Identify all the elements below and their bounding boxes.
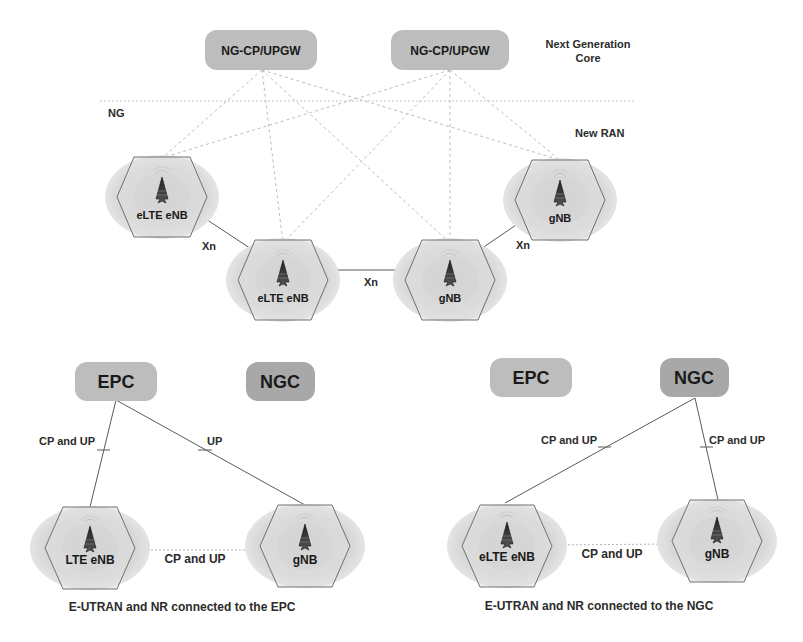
- core-node-label: EPC: [97, 372, 134, 392]
- new-ran-label: New RAN: [575, 127, 625, 139]
- bottom-right-diagram: EPC NGC CP and UP CP and UP eLTE eNB gNB…: [447, 358, 777, 613]
- link-label: CP and UP: [541, 434, 597, 446]
- xn-links: [162, 190, 560, 270]
- ng-interface-label: NG: [108, 107, 125, 119]
- next-generation-core-label: Next Generation: [546, 38, 631, 50]
- top-diagram: NG-CP/UPGW NG-CP/UPGW Next Generation Co…: [100, 30, 635, 322]
- ran-node-label: LTE eNB: [65, 553, 114, 567]
- xn-label: Xn: [516, 239, 530, 251]
- diagram-caption: E-UTRAN and NR connected to the NGC: [485, 599, 714, 613]
- core-node-epc[interactable]: EPC: [75, 362, 157, 401]
- core-node-ngc[interactable]: NGC: [660, 358, 729, 397]
- ran-link-label: CP and UP: [581, 547, 642, 561]
- core-node-label: NGC: [674, 368, 714, 388]
- ran-node-elte-enb-1[interactable]: eLTE eNB: [105, 155, 219, 239]
- ran-node-label: gNB: [439, 292, 462, 304]
- ran-node-elte-enb[interactable]: eLTE eNB: [447, 504, 567, 588]
- core-node-epc[interactable]: EPC: [490, 358, 572, 397]
- xn-label: Xn: [364, 276, 378, 288]
- ran-node-label: eLTE eNB: [479, 550, 535, 564]
- ran-node-label: eLTE eNB: [136, 209, 187, 221]
- ran-node-gnb-1[interactable]: gNB: [393, 238, 507, 322]
- ran-node-label: gNB: [293, 553, 318, 567]
- link-label: UP: [207, 435, 222, 447]
- xn-label: Xn: [202, 240, 216, 252]
- link-label: CP and UP: [709, 434, 765, 446]
- diagram-caption: E-UTRAN and NR connected to the EPC: [69, 600, 296, 614]
- core-node-label: NG-CP/UPGW: [221, 44, 301, 58]
- next-generation-core-label-line2: Core: [575, 52, 600, 64]
- network-architecture-diagram: NG-CP/UPGW NG-CP/UPGW Next Generation Co…: [0, 0, 803, 642]
- ran-node-label: gNB: [549, 212, 572, 224]
- bottom-left-diagram: EPC NGC CP and UP UP LTE eNB gNB CP and …: [30, 362, 365, 614]
- core-node-ngc[interactable]: NGC: [246, 362, 315, 401]
- ran-node-gnb[interactable]: gNB: [657, 499, 777, 583]
- ran-node-gnb[interactable]: gNB: [245, 504, 365, 588]
- core-node-ng-cp-upgw-2[interactable]: NG-CP/UPGW: [391, 30, 509, 70]
- ran-node-elte-enb-2[interactable]: eLTE eNB: [226, 238, 340, 322]
- core-node-label: NGC: [260, 372, 300, 392]
- core-node-label: NG-CP/UPGW: [410, 44, 490, 58]
- ran-node-gnb-2[interactable]: gNB: [503, 158, 617, 242]
- ran-node-label: gNB: [705, 547, 730, 561]
- link-label: CP and UP: [39, 435, 95, 447]
- core-node-ng-cp-upgw-1[interactable]: NG-CP/UPGW: [205, 30, 317, 70]
- ran-node-lte-enb[interactable]: LTE eNB: [30, 506, 150, 590]
- ng-links: [162, 70, 560, 243]
- ran-link-label: CP and UP: [164, 552, 225, 566]
- ran-node-label: eLTE eNB: [257, 292, 308, 304]
- core-node-label: EPC: [512, 368, 549, 388]
